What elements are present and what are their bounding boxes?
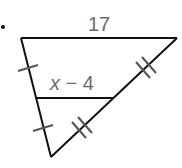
midsegment-label: x − 4	[49, 72, 94, 94]
triangle-diagram: 17 x − 4	[0, 0, 182, 168]
midsegment-expression: − 4	[60, 72, 94, 94]
bullet-marker	[1, 25, 5, 29]
top-side-label: 17	[88, 13, 110, 35]
